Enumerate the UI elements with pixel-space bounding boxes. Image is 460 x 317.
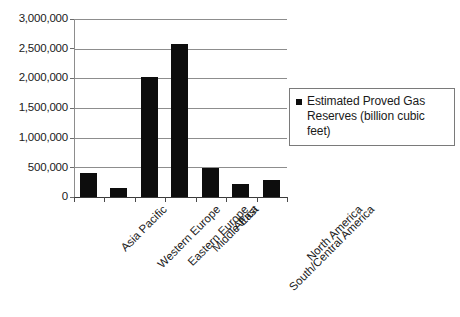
bar-africa[interactable] bbox=[202, 168, 219, 197]
legend-label: Estimated Proved Gas Reserves (billion c… bbox=[307, 94, 448, 139]
bars-layer bbox=[74, 19, 287, 197]
bar-western-europe[interactable] bbox=[110, 188, 127, 198]
x-tick-mark bbox=[226, 197, 227, 202]
x-tick-label-south-central-america: South/Central America bbox=[287, 203, 377, 293]
x-tick-mark bbox=[287, 197, 288, 202]
legend-label-line1: Estimated Proved Gas bbox=[307, 94, 425, 108]
square-marker-icon bbox=[296, 99, 302, 105]
y-tick-label: 2,500,000 bbox=[19, 43, 68, 55]
bar-asia-pacific[interactable] bbox=[80, 173, 97, 197]
x-tick-label-africa: Africa bbox=[231, 203, 260, 232]
x-tick-mark bbox=[104, 197, 105, 202]
y-tick-label: 3,000,000 bbox=[19, 13, 68, 25]
bar-south-central-america[interactable] bbox=[232, 184, 249, 197]
bar-eastern-europe[interactable] bbox=[141, 77, 158, 197]
bar-north-america[interactable] bbox=[263, 180, 280, 197]
y-tick-label: 0 bbox=[62, 191, 68, 203]
x-tick-label-north-america: North America bbox=[304, 203, 364, 263]
x-tick-mark bbox=[196, 197, 197, 202]
y-axis-labels: 3,000,000 2,500,000 2,000,000 1,500,000 … bbox=[0, 0, 68, 317]
x-tick-mark bbox=[165, 197, 166, 202]
y-tick-label: 1,000,000 bbox=[19, 132, 68, 144]
legend-label-line2: Reserves (billion cubic feet) bbox=[307, 109, 448, 139]
x-tick-label-asia-pacific: Asia Pacific bbox=[118, 203, 169, 254]
bar-middle-east[interactable] bbox=[171, 44, 188, 197]
x-tick-mark bbox=[74, 197, 75, 202]
x-tick-mark bbox=[257, 197, 258, 202]
x-tick-mark bbox=[135, 197, 136, 202]
y-tick-label: 500,000 bbox=[28, 162, 68, 174]
chart-legend: Estimated Proved Gas Reserves (billion c… bbox=[289, 88, 455, 146]
y-tick-label: 1,500,000 bbox=[19, 102, 68, 114]
bar-chart: 3,000,000 2,500,000 2,000,000 1,500,000 … bbox=[0, 0, 460, 317]
legend-item[interactable]: Estimated Proved Gas Reserves (billion c… bbox=[296, 94, 448, 139]
y-tick-label: 2,000,000 bbox=[19, 72, 68, 84]
